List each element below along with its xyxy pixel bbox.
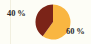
pie-chart-figure: 40 % 60 % [0,0,91,44]
vertical-rule [10,0,11,44]
pie-label-60: 60 % [66,27,85,36]
pie-label-40: 40 % [7,9,26,18]
